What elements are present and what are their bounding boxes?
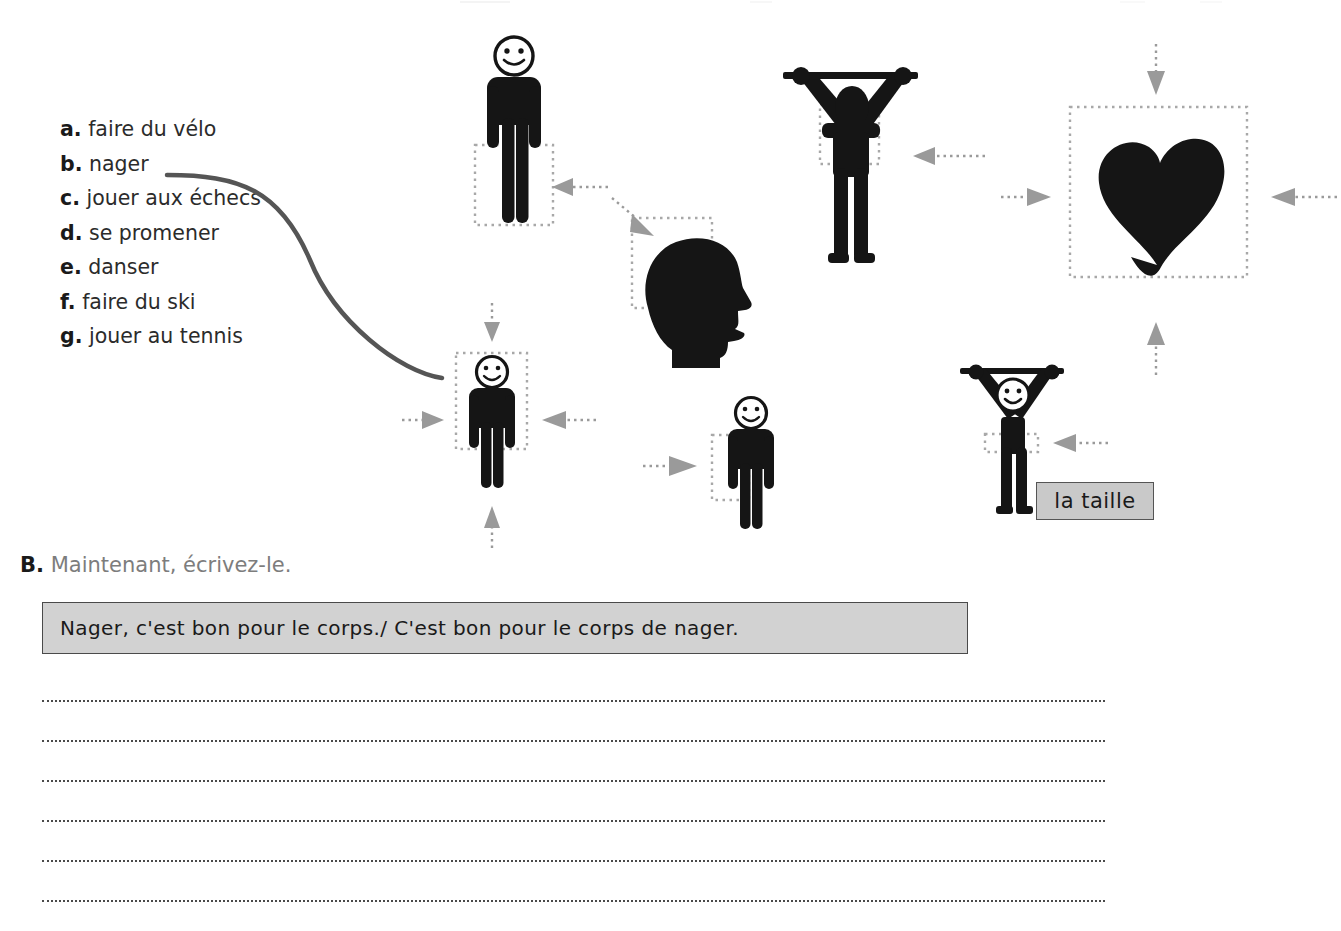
write-line[interactable] — [42, 820, 1105, 822]
part-b-letter: B. — [20, 553, 44, 577]
pointer-arrow-bottom — [484, 506, 500, 548]
vocab-letter: a. — [60, 117, 82, 141]
vocab-text: jouer aux échecs — [86, 186, 260, 210]
pointer-arrow-top — [1147, 44, 1165, 95]
write-line[interactable] — [42, 700, 1105, 702]
list-item: b. nager — [60, 147, 390, 182]
write-line[interactable] — [42, 740, 1105, 742]
pointer-arrow-top — [484, 303, 500, 342]
list-item: a. faire du vélo — [60, 112, 390, 147]
vocab-text: faire du vélo — [88, 117, 216, 141]
vocab-letter: e. — [60, 255, 82, 279]
list-item: e. danser — [60, 250, 390, 285]
vocab-text: faire du ski — [82, 290, 195, 314]
pointer-arrow-right — [1271, 188, 1337, 206]
vocab-letter: c. — [60, 186, 80, 210]
cropped-line-remnant — [0, 0, 1341, 5]
sample-answer-text: Nager, c'est bon pour le corps./ C'est b… — [60, 616, 739, 640]
taille-label-box: la taille — [1036, 482, 1154, 520]
vocab-text: jouer au tennis — [89, 324, 243, 348]
pointer-arrow-left — [1001, 188, 1051, 206]
vocabulary-list: a. faire du vélo b. nager c. jouer aux é… — [60, 112, 390, 354]
vocab-letter: d. — [60, 221, 82, 245]
vocab-letter: f. — [60, 290, 76, 314]
vocab-text: se promener — [89, 221, 219, 245]
heart-highlighted — [965, 25, 1341, 400]
part-b-heading-text: Maintenant, écrivez-le. — [51, 553, 292, 577]
write-line[interactable] — [42, 780, 1105, 782]
sample-answer-box: Nager, c'est bon pour le corps./ C'est b… — [42, 602, 968, 654]
part-b-heading: B. Maintenant, écrivez-le. — [20, 553, 291, 577]
pointer-arrow-right — [1053, 434, 1108, 452]
list-item: g. jouer au tennis — [60, 319, 390, 354]
standing-figure-whole-body-highlighted — [400, 290, 640, 570]
pointer-arrow-right — [542, 411, 596, 429]
taille-label-text: la taille — [1054, 489, 1135, 513]
blank-writing-lines — [42, 700, 1105, 931]
list-item: c. jouer aux échecs — [60, 181, 390, 216]
write-line[interactable] — [42, 900, 1105, 902]
standing-figure-arm-highlighted — [615, 380, 825, 570]
pointer-arrow-left — [402, 411, 444, 429]
vocab-letter: g. — [60, 324, 82, 348]
vocab-letter: b. — [60, 152, 82, 176]
pointer-arrow-left — [643, 456, 697, 476]
write-line[interactable] — [42, 860, 1105, 862]
pointer-arrow-right — [552, 178, 608, 196]
list-item: f. faire du ski — [60, 285, 390, 320]
head-profile-brain-highlighted — [610, 190, 810, 380]
standing-figure-legs-highlighted — [430, 30, 630, 250]
list-item: d. se promener — [60, 216, 390, 251]
vocab-text: nager — [89, 152, 149, 176]
vocab-text: danser — [88, 255, 158, 279]
